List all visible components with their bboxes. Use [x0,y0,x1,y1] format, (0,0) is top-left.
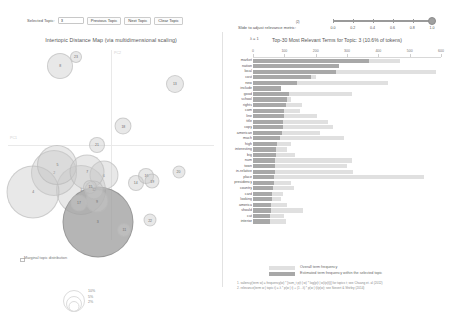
term-bar-area [253,153,441,157]
intertopic-distance-panel: Intertopic Distance Map (via multidimens… [0,32,222,287]
slider-tick-label: 0.2 [350,26,355,30]
topic-bubble-number: 8 [59,64,61,68]
bar-topic-frequency [253,86,281,90]
bar-topic-frequency [253,59,369,63]
topic-bubble-15[interactable]: 15 [83,180,97,194]
topic-bubble-17[interactable]: 17 [71,194,88,211]
slider-tick-label: 0.6 [390,26,395,30]
bar-topic-frequency [253,103,286,107]
clear-topic-button[interactable]: Clear Topic [154,17,182,25]
term-label[interactable]: looking [212,197,252,201]
bar-overall-frequency [253,175,424,179]
term-bar-area [253,59,441,63]
topic-bubble-number: 23 [74,55,78,59]
topic-bubble-20[interactable]: 20 [172,165,185,178]
term-label[interactable]: market [212,58,252,62]
topic-bubble-22[interactable]: 22 [144,214,157,227]
term-bar-area [253,192,441,196]
term-label[interactable]: america [212,203,252,207]
bubble-size-legend: 2%5%10% [74,270,134,314]
x-axis-tick [441,54,442,57]
topic-bubble-19[interactable]: 19 [145,174,160,189]
bar-topic-frequency [253,114,284,118]
next-topic-button[interactable]: Next Topic [124,17,151,25]
slider-track[interactable] [333,20,433,22]
term-label[interactable]: cut [212,214,252,218]
term-label[interactable]: american [212,131,252,135]
selected-topic-input[interactable] [58,17,84,24]
term-bar-area [253,175,441,179]
term-label[interactable]: in-relative [212,169,252,173]
term-bar-area [253,136,441,140]
term-label[interactable]: town [212,164,252,168]
term-label[interactable]: local [212,69,252,73]
slider-handle[interactable] [428,17,436,25]
top-terms-title: Top-30 Most Relevant Terms for Topic: 3 … [223,37,450,43]
term-label[interactable]: new [212,81,252,85]
x-axis-tick-label: 600 [438,49,444,53]
term-bar-row[interactable]: interior [223,219,450,225]
term-label[interactable]: big [212,153,252,157]
term-label[interactable]: nation [212,64,252,68]
bar-topic-frequency [253,92,289,96]
topic-bubble-21[interactable]: 21 [89,137,105,153]
term-label[interactable]: rights [212,103,252,107]
bar-topic-frequency [253,181,274,185]
term-bar-list: marketnationlocalcostnewincludegoodschoo… [223,58,450,224]
term-label[interactable]: include [212,86,252,90]
term-label[interactable]: card [212,192,252,196]
slider-label: Slide to adjust relevance metric: [238,25,296,30]
term-label[interactable]: title [212,119,252,123]
term-bar-area [253,92,441,96]
x-axis-tick-label: 400 [375,49,381,53]
term-label[interactable]: num [212,158,252,162]
term-label[interactable]: school [212,97,252,101]
term-label[interactable]: high [212,142,252,146]
term-bar-area [253,64,441,68]
topic-bubble-18[interactable]: 18 [115,118,132,135]
intertopic-map-title: Intertopic Distance Map (via multidimens… [0,37,222,43]
term-bar-area [253,147,441,151]
topic-bubble-number: 15 [88,185,92,189]
term-bar-area [253,197,441,201]
slider-footnote-ref: (2) [296,20,299,24]
term-label[interactable]: place [212,175,252,179]
intertopic-scatter-plot[interactable]: PC1 PC2 12345678911121314151617181920212… [8,50,214,240]
topic-bubble-number: 22 [148,218,152,222]
previous-topic-button[interactable]: Previous Topic [87,17,122,25]
term-label[interactable]: good [212,92,252,96]
term-label[interactable]: should [212,208,252,212]
selected-topic-label: Selected Topic: [27,18,55,23]
x-axis-tick-label: 300 [344,49,350,53]
topic-bubble-11[interactable]: 11 [117,223,131,237]
term-bar-area [253,103,441,107]
term-label[interactable]: copy [212,125,252,129]
term-label[interactable]: cost [212,75,252,79]
term-label[interactable]: interior [212,219,252,223]
bar-topic-frequency [253,64,339,68]
term-bar-area [253,120,441,124]
top-terms-panel: Top-30 Most Relevant Terms for Topic: 3 … [222,32,450,287]
bar-topic-frequency [253,75,311,79]
topic-bubble-13[interactable]: 13 [166,75,184,93]
term-bar-area [253,214,441,218]
bar-topic-frequency [253,214,270,218]
term-label[interactable]: interesting [212,147,252,151]
bar-topic-frequency [253,197,272,201]
term-label[interactable]: much [212,136,252,140]
bar-topic-frequency [253,158,275,162]
term-label[interactable]: presidency [212,180,252,184]
legend-row-selected: Estimated term frequency within the sele… [269,271,444,277]
bar-topic-frequency [253,81,297,85]
term-label[interactable]: country [212,186,252,190]
legend-swatch-overall [269,266,295,270]
topic-bubble-23[interactable]: 23 [70,51,82,63]
slider-tick-label: 0.4 [370,26,375,30]
bar-topic-frequency [253,70,336,74]
term-label[interactable]: line [212,114,252,118]
term-bar-area [253,70,441,74]
topic-bubble-number: 9 [96,199,98,203]
term-label[interactable]: com [212,108,252,112]
term-bar-area [253,203,441,207]
